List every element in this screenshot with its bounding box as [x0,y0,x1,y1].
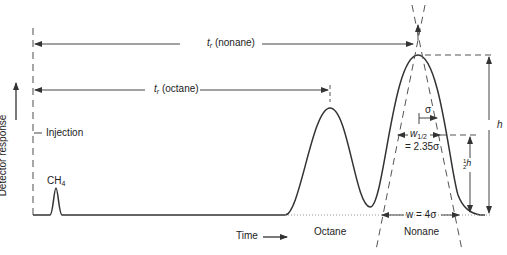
octane-label: Octane [314,226,346,237]
tr-octane-label: tr (octane) [154,83,199,95]
tr-nonane-label: tr (nonane) [207,37,255,49]
ch4-main: CH [47,175,61,186]
h-label: h [497,119,503,130]
nonane-label: Nonane [404,226,439,237]
x-axis-label: Time [236,230,258,241]
w-base-label: w = 4σ [406,209,436,220]
w-half-eq: = 2.35σ [405,141,439,152]
ch4-sub: 4 [61,180,65,187]
ch4-label: CH4 [47,175,65,187]
y-axis-label: Detector response [0,115,8,197]
injection-label: Injection [46,127,83,138]
half-h-label: 1 2 h [463,158,471,170]
w-half-label: w1/2 [410,128,427,140]
sigma-label: σ [425,104,431,115]
